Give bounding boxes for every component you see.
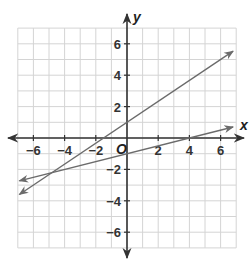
y-axis-label: y (132, 9, 142, 25)
x-tick-label: −2 (88, 143, 103, 158)
x-tick-label: −6 (26, 143, 41, 158)
x-tick-label: 4 (186, 143, 194, 158)
x-tick-label: −4 (57, 143, 73, 158)
x-tick-label: 6 (217, 143, 224, 158)
y-tick-label: −4 (106, 194, 122, 209)
coordinate-plane: xyO −6−4−2246642−2−4−6 (0, 0, 252, 264)
x-axis-label: x (239, 117, 249, 133)
y-tick-label: −2 (106, 162, 121, 177)
axes: xyO (8, 9, 249, 258)
y-tick-label: 2 (114, 100, 121, 115)
y-tick-label: 6 (114, 37, 121, 52)
y-tick-label: 4 (114, 68, 122, 83)
y-tick-label: −6 (106, 225, 121, 240)
